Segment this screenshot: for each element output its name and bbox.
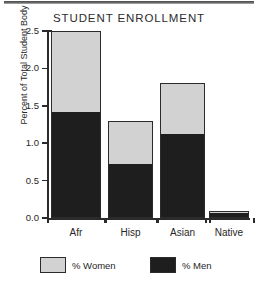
chart-title: STUDENT ENROLLMENT	[0, 12, 258, 24]
x-tick-mark	[209, 218, 211, 223]
bar-segment-women	[109, 122, 152, 164]
bar-segment-men	[161, 134, 204, 217]
legend-label: % Men	[182, 260, 212, 271]
bar-segment-men	[52, 112, 100, 217]
x-tick-label-native: Native	[197, 227, 258, 238]
x-axis-line	[47, 218, 250, 220]
y-tick-label: 1.0	[8, 137, 39, 148]
y-tick-label: 2.5	[8, 25, 39, 36]
x-tick-mark	[156, 218, 158, 223]
chart-figure: STUDENT ENROLLMENT Percent of Total Stud…	[0, 0, 258, 294]
chart-legend: % Women% Men	[0, 255, 258, 281]
x-tick-mark	[104, 218, 106, 223]
legend-item-women: % Women	[40, 255, 116, 275]
legend-swatch	[40, 257, 66, 273]
bar-segment-women	[52, 32, 100, 112]
legend-swatch	[150, 257, 176, 273]
y-tick-label: 0.0	[8, 212, 39, 223]
x-tick-mark	[47, 218, 49, 223]
legend-item-men: % Men	[150, 255, 212, 275]
bar-afr	[51, 31, 101, 218]
x-tick-mark	[253, 218, 255, 223]
bar-segment-men	[109, 164, 152, 217]
legend-label: % Women	[72, 260, 116, 271]
bar-native	[209, 211, 249, 218]
y-tick-label: 0.5	[8, 175, 39, 186]
bar-hisp	[108, 121, 153, 218]
bar-segment-men	[210, 213, 248, 217]
page-edge-band	[4, 1, 254, 4]
y-tick-label: 2.0	[8, 62, 39, 73]
x-tick-mark	[205, 218, 207, 223]
y-tick-label: 1.5	[8, 100, 39, 111]
bar-segment-women	[161, 84, 204, 134]
bar-asian	[160, 83, 205, 218]
